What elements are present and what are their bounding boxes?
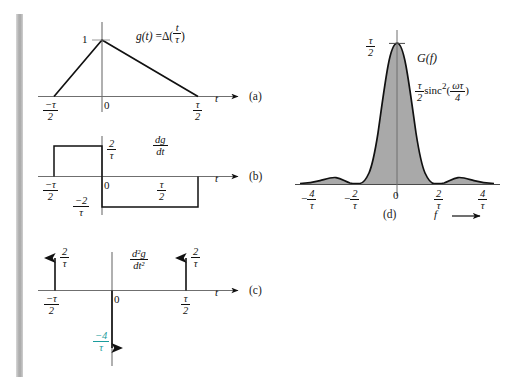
panel-c-impulse-center-num: −4 (93, 330, 109, 342)
panel-d-formula: τ2sinc2(ωτ4) (415, 80, 469, 103)
panel-c-letter: (c) (249, 284, 262, 296)
panel-c-tick-left-num: −τ (44, 293, 59, 305)
panel-a-tick-left-den: 2 (43, 111, 58, 122)
panel-d-letter: (d) (383, 208, 396, 220)
panel-d-tick-pos4: 4τ (478, 188, 487, 211)
panel-b-level-neg-den: τ (73, 207, 89, 218)
panel-b-plot (38, 136, 238, 215)
panel-a-origin-label: 0 (104, 99, 110, 111)
panel-c-tick-right: τ2 (181, 293, 190, 316)
panel-c-axis-label: t (215, 286, 218, 298)
panel-b-signal-den: dt (153, 146, 168, 157)
panel-b-tick-left-den: 2 (43, 191, 58, 202)
panel-b-level-pos-den: τ (107, 150, 116, 161)
panel-d-formula-coef-num: τ (415, 80, 424, 92)
panel-c-signal-den: dt² (130, 260, 148, 271)
panel-c-origin-label: 0 (114, 293, 120, 305)
panel-c-impulse-left-den: τ (60, 258, 69, 269)
panel-d-tick-pos2-num: 2 (434, 188, 443, 200)
panel-d-peak-label: τ2 (366, 35, 375, 58)
panel-d-tick-neg2-num: 2 (350, 188, 359, 200)
panel-a-tick-right-den: 2 (193, 111, 202, 122)
panel-a-triangle-curve (54, 40, 198, 97)
panel-d-tick-pos4-num: 4 (478, 188, 487, 200)
panel-d-formula-arg-den: 4 (450, 92, 465, 103)
panel-d-tick-neg4: −4τ (301, 188, 316, 211)
panel-b-level-neg: −2τ (73, 195, 89, 218)
panel-b-tick-left: −τ2 (43, 179, 58, 202)
panel-c-signal-num: d²g (130, 248, 148, 260)
panel-a-tick-right: τ2 (193, 99, 202, 122)
panel-b-level-pos-num: 2 (107, 138, 116, 150)
panel-c-tick-right-num: τ (181, 293, 190, 305)
panel-a-axis-label: t (215, 92, 218, 104)
panel-a-signal-label: g(t) =Δ( t τ ) (136, 22, 185, 45)
panel-c-impulse-right-den: τ (191, 258, 200, 269)
panel-c-impulse-center-label: −4τ (93, 330, 109, 353)
panel-d-peak-num: τ (366, 35, 375, 47)
panel-d-tick-neg2: −2τ (344, 188, 359, 211)
panel-d-signal-label: G(f) (417, 51, 437, 66)
panel-d-origin-label: 0 (393, 189, 399, 201)
panel-d-formula-coef-den: 2 (415, 92, 424, 103)
panel-b-tick-left-num: −τ (43, 179, 58, 191)
panel-c-impulse-center-den: τ (93, 342, 109, 353)
panel-b-tick-right: τ2 (157, 179, 166, 202)
panel-b-signal-num: dg (153, 134, 168, 146)
panel-d-tick-neg4-num: 4 (307, 188, 316, 200)
panel-c-tick-left: −τ2 (44, 293, 59, 316)
panel-d-axis-label: f (434, 208, 437, 220)
panel-b-signal-label: dgdt (153, 134, 168, 157)
panel-c-impulse-left-num: 2 (60, 246, 69, 258)
panel-a-peak-label: 1 (82, 33, 88, 45)
panel-b-axis-label: t (215, 172, 218, 184)
panel-c-tick-right-den: 2 (181, 305, 190, 316)
panel-d-tick-pos4-den: τ (478, 200, 487, 211)
panel-c-impulse-right-label: 2τ (191, 246, 200, 269)
panel-b-level-pos: 2τ (107, 138, 116, 161)
panel-d-formula-fn: sinc (424, 84, 442, 96)
panel-c-impulse-right-num: 2 (191, 246, 200, 258)
panel-a-tick-right-num: τ (193, 99, 202, 111)
panel-a-tick-left: −τ2 (43, 99, 58, 122)
panel-c-signal-label: d²gdt² (130, 248, 148, 271)
panel-a-letter: (a) (249, 90, 262, 102)
panel-b-tick-right-num: τ (157, 179, 166, 191)
figure-page: 1 g(t) =Δ( t τ ) 0 −τ2 τ2 t (a) 2τ dgdt … (0, 0, 519, 377)
panel-b-letter: (b) (249, 170, 262, 182)
panel-d-tick-neg2-den: τ (350, 200, 359, 211)
panel-c-impulse-left-label: 2τ (60, 246, 69, 269)
panel-a-tick-left-num: −τ (43, 99, 58, 111)
panel-d-peak-den: 2 (366, 47, 375, 58)
panel-b-origin-label: 0 (104, 179, 110, 191)
panel-c-tick-left-den: 2 (44, 305, 59, 316)
panel-b-level-neg-num: −2 (73, 195, 89, 207)
panel-b-tick-right-den: 2 (157, 191, 166, 202)
panel-d-tick-neg4-den: τ (307, 200, 316, 211)
panel-d-formula-arg-num: ωτ (450, 80, 465, 92)
